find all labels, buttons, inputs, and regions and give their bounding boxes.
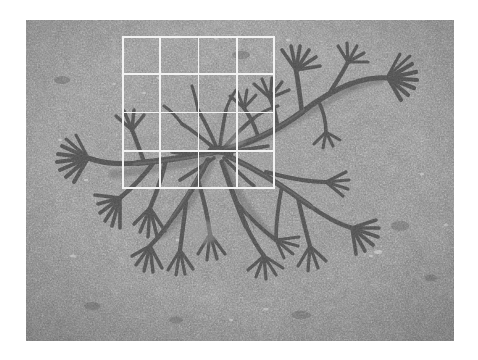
screenshot-canvas	[0, 0, 478, 360]
underwater-seaweed-photograph	[26, 20, 454, 341]
photo-canvas	[26, 20, 454, 341]
